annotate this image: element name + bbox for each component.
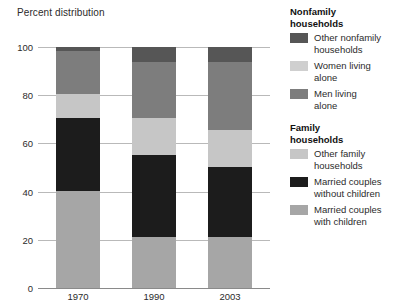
segment-1970-married-with-children[interactable] xyxy=(56,191,100,288)
segment-1970-other-family[interactable] xyxy=(56,94,100,118)
segment-1970-other-nonfamily[interactable] xyxy=(56,47,100,51)
segment-2003-women-alone[interactable] xyxy=(208,62,252,100)
legend-item-married-with-children[interactable]: Married couples with children xyxy=(290,204,394,227)
xtick-label-1970: 1970 xyxy=(48,291,108,302)
segment-1970-women-alone[interactable] xyxy=(56,51,100,81)
legend-item-men-alone[interactable]: Men living alone xyxy=(290,88,394,111)
segment-1970-men-alone[interactable] xyxy=(56,81,100,94)
segment-2003-married-with-children[interactable] xyxy=(208,237,252,288)
chart-legend: Nonfamily households Other nonfamily hou… xyxy=(290,6,394,236)
ytick-label-0: 0 xyxy=(28,283,33,294)
segment-2003-other-nonfamily[interactable] xyxy=(208,47,252,62)
segment-2003-other-family[interactable] xyxy=(208,130,252,167)
legend-swatch-men-alone-icon xyxy=(290,89,308,99)
legend-swatch-women-alone-icon xyxy=(290,61,308,71)
legend-label-married-with-children: Married couples with children xyxy=(314,204,382,227)
legend-label-women-alone: Women living alone xyxy=(314,60,371,83)
segment-1990-married-without-children[interactable] xyxy=(132,155,176,237)
legend-item-women-alone[interactable]: Women living alone xyxy=(290,60,394,83)
legend-label-married-without-children: Married couples without children xyxy=(314,176,382,199)
legend-group-nonfamily: Nonfamily households Other nonfamily hou… xyxy=(290,6,394,111)
gridline-0 xyxy=(38,288,270,289)
xtick-label-2003: 2003 xyxy=(200,291,260,302)
legend-item-other-nonfamily[interactable]: Other nonfamily households xyxy=(290,32,394,55)
legend-swatch-other-family-icon xyxy=(290,149,308,159)
chart-title: Percent distribution xyxy=(17,7,105,18)
ytick-label-40: 40 xyxy=(22,186,33,197)
stacked-bar-chart-figure: Percent distribution 100 80 60 40 20 0 xyxy=(0,0,395,304)
legend-group-title-nonfamily: Nonfamily households xyxy=(290,6,394,29)
legend-label-men-alone: Men living alone xyxy=(314,88,357,111)
legend-item-married-without-children[interactable]: Married couples without children xyxy=(290,176,394,199)
legend-swatch-other-nonfamily-icon xyxy=(290,33,308,43)
xtick-label-1990: 1990 xyxy=(124,291,184,302)
legend-item-other-family[interactable]: Other family households xyxy=(290,148,394,171)
segment-1990-married-with-children[interactable] xyxy=(132,237,176,288)
ytick-label-80: 80 xyxy=(22,90,33,101)
segment-1970-married-without-children[interactable] xyxy=(56,118,100,191)
legend-swatch-married-without-children-icon xyxy=(290,177,308,187)
segment-1990-men-alone[interactable] xyxy=(132,87,176,118)
segment-1990-other-nonfamily[interactable] xyxy=(132,47,176,62)
legend-group-family: Family households Other family household… xyxy=(290,122,394,227)
segment-2003-married-without-children[interactable] xyxy=(208,167,252,237)
legend-group-title-family: Family households xyxy=(290,122,394,145)
legend-swatch-married-with-children-icon xyxy=(290,205,308,215)
segment-1990-other-family[interactable] xyxy=(132,118,176,155)
legend-label-other-nonfamily: Other nonfamily households xyxy=(314,32,381,55)
ytick-label-60: 60 xyxy=(22,138,33,149)
segment-1990-women-alone[interactable] xyxy=(132,62,176,87)
segment-2003-men-alone[interactable] xyxy=(208,100,252,130)
ytick-label-100: 100 xyxy=(17,42,33,53)
plot-area: 100 80 60 40 20 0 xyxy=(38,47,270,288)
ytick-label-20: 20 xyxy=(22,234,33,245)
legend-label-other-family: Other family households xyxy=(314,148,365,171)
